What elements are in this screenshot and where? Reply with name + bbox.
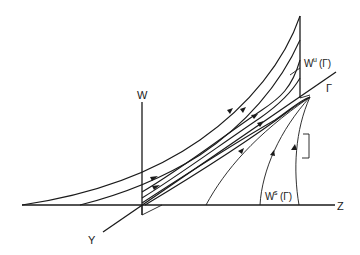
origin-bracket [142,205,162,215]
stable-bracket [302,134,309,158]
y-axis-label: Y [88,234,96,246]
svg-text:u: u [313,56,317,63]
svg-text:s: s [274,189,278,196]
orbit-curve-3 [142,78,300,198]
orbit-curve-6 [145,97,310,205]
stable-orbit-3 [296,97,310,205]
unstable-manifold-label: W u (Γ) [304,56,331,69]
svg-text:(Γ): (Γ) [319,58,331,69]
z-axis-label: Z [337,200,344,212]
orbit-curve-4 [142,60,300,192]
gamma-label: Γ [326,82,332,94]
stable-manifold-label: W s (Γ) [265,189,292,202]
manifold-diagram: W Z Y Γ W u (Γ) W s (Γ) [0,0,360,255]
orbit-curve-2 [80,40,300,205]
w-axis-label: W [137,89,148,101]
svg-text:(Γ): (Γ) [280,191,292,202]
orbit-curve-5 [142,97,310,203]
